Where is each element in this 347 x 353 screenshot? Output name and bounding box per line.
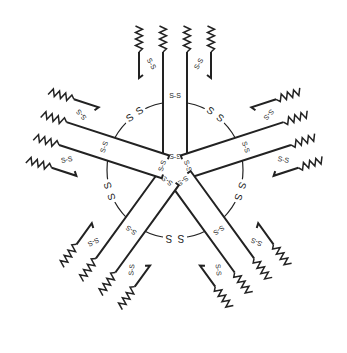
disulfide-bond-light-heavy-left: S-S (127, 263, 135, 276)
variable-region-light-right (58, 242, 79, 267)
light-chain-right (272, 164, 298, 176)
variable-region-heavy-right (41, 111, 68, 126)
ring-sulfur: S (177, 233, 184, 244)
variable-region-light-right (212, 285, 233, 310)
light-chain-left (251, 99, 277, 111)
variable-region-heavy-left (251, 256, 272, 281)
disulfide-bond-light-heavy-left: S-S (262, 108, 275, 122)
igm-pentamer-diagram: S-SS-SS-SS-SSSS-SS-SS-SS-SSSS-SS-SS-SS-S… (0, 0, 347, 353)
variable-region-light-right (208, 26, 215, 52)
disulfide-bond-light-heavy-left: S-S (146, 57, 158, 71)
variable-region-heavy-right (232, 270, 253, 295)
antibody-arm-1: S-SS-SS-SS-SSS (136, 26, 229, 162)
variable-region-light-left (271, 242, 292, 267)
variable-region-light-left (136, 26, 143, 52)
disulfide-bond-light-heavy-right: S-S (277, 155, 290, 164)
variable-region-light-right (48, 88, 75, 103)
antibody-arm-4: S-SS-SS-SS-SSS (47, 145, 202, 310)
variable-region-heavy-right (184, 26, 191, 52)
ring-sulfur: S (165, 233, 172, 244)
disulfide-bond-light-heavy-left: S-S (60, 155, 73, 164)
variable-region-heavy-left (160, 26, 167, 52)
variable-region-light-right (297, 156, 324, 171)
variable-region-light-left (117, 285, 138, 310)
variable-region-light-left (275, 88, 302, 103)
arm-mask (163, 50, 187, 162)
variable-region-heavy-left (97, 270, 118, 295)
light-chain-left (52, 164, 78, 176)
variable-region-light-left (26, 156, 53, 171)
disulfide-bond-light-heavy-right: S-S (192, 57, 204, 71)
diagram-canvas: S-SS-SS-SS-SSSS-SS-SS-SS-SSSS-SS-SS-SS-S… (0, 0, 347, 353)
disulfide-bond-light-heavy-right: S-S (214, 264, 222, 277)
disulfide-bond-light-heavy-right: S-S (86, 237, 100, 248)
disulfide-bond-light-heavy-left: S-S (249, 237, 263, 248)
variable-region-heavy-left (33, 134, 60, 149)
light-chain-right (207, 52, 211, 78)
disulfide-bond-light-heavy-right: S-S (74, 108, 87, 122)
light-chain-left (139, 52, 143, 78)
light-chain-right (73, 99, 99, 111)
variable-region-heavy-left (282, 111, 309, 126)
variable-region-heavy-right (290, 134, 317, 149)
disulfide-bond-hinge: S-S (169, 92, 181, 99)
